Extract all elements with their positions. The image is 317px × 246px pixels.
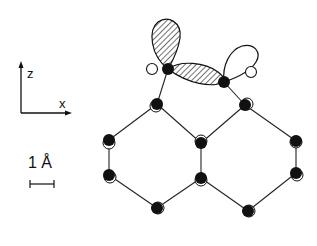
atom-icon — [103, 134, 115, 146]
atom-icon — [239, 99, 251, 111]
open-atom-left-icon — [147, 64, 158, 75]
orbital-dimer-bond-hatched — [168, 63, 225, 84]
atom-icon — [290, 167, 302, 179]
dimer-atom-left-icon — [162, 63, 174, 75]
atom-icon — [103, 169, 115, 181]
atom-icon — [195, 137, 207, 149]
atom-icon — [151, 202, 163, 214]
open-atom-right-icon — [246, 67, 257, 78]
x-arrow-icon — [65, 111, 72, 116]
scale-bar-label: 1 Å — [28, 153, 52, 171]
atom-icon — [290, 135, 302, 147]
dimer-atom-right-icon — [218, 76, 230, 88]
z-arrow-icon — [19, 61, 24, 68]
atom-icon — [242, 205, 254, 217]
z-axis-label: z — [27, 66, 34, 81]
atom-icon — [195, 172, 207, 184]
axes-indicator: z x — [19, 61, 73, 116]
diagram-canvas: z x 1 Å — [0, 0, 317, 246]
x-axis-label: x — [59, 96, 66, 111]
orbital-lobe-left-hatched — [152, 19, 180, 69]
atoms — [103, 63, 302, 217]
substrate-atom-ghosts — [103, 98, 303, 217]
atom-icon — [151, 98, 163, 110]
scale-bar: 1 Å — [28, 153, 54, 188]
